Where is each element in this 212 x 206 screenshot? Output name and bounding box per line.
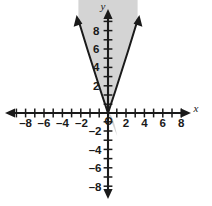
y-tick-label-8: 8 bbox=[93, 25, 100, 37]
x-axis-label: x bbox=[193, 102, 199, 114]
y-tick-label--8: –8 bbox=[89, 181, 102, 193]
y-tick-label-6: 6 bbox=[93, 43, 99, 55]
y-tick-label--2: –2 bbox=[89, 125, 102, 137]
x-tick-label-6: 6 bbox=[160, 117, 166, 129]
x-axis-left-arrow bbox=[5, 108, 15, 117]
y-tick-label--4: –4 bbox=[89, 144, 102, 156]
y-axis-label: y bbox=[100, 0, 106, 12]
y-tick-label-2: 2 bbox=[93, 80, 99, 92]
x-tick-label--4: –4 bbox=[56, 117, 69, 129]
x-tick-label--2: –2 bbox=[75, 117, 88, 129]
x-tick-label--6: –6 bbox=[38, 117, 51, 129]
coordinate-graph: –8 –6 –4 –2 2 4 6 8 8 6 4 2 –2 –4 –6 –8 … bbox=[0, 0, 212, 206]
y-tick-label-4: 4 bbox=[93, 61, 100, 73]
y-axis-down-arrow bbox=[103, 189, 112, 199]
x-tick-label-2: 2 bbox=[123, 117, 129, 129]
plot-area: –8 –6 –4 –2 2 4 6 8 8 6 4 2 –2 –4 –6 –8 … bbox=[0, 0, 212, 206]
x-tick-label-4: 4 bbox=[141, 117, 148, 129]
x-tick-label-8: 8 bbox=[178, 117, 185, 129]
y-tick-label--6: –6 bbox=[89, 162, 102, 174]
x-tick-label--8: –8 bbox=[19, 117, 32, 129]
origin-label: O bbox=[105, 115, 113, 127]
